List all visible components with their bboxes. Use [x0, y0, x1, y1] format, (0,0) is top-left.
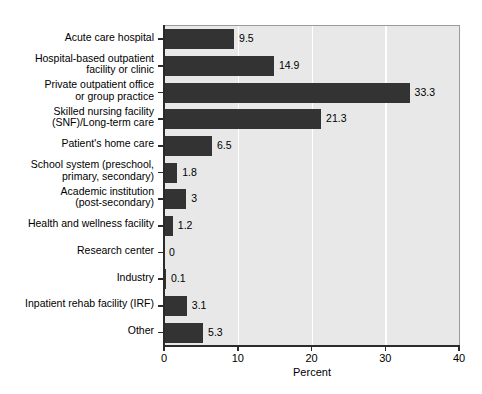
category-label: Hospital-based outpatient facility or cl… [0, 53, 158, 76]
value-label: 3 [191, 193, 197, 204]
y-axis-tick [158, 172, 164, 174]
x-axis-tick [385, 346, 387, 351]
category-label: Skilled nursing facility (SNF)/Long-term… [0, 106, 158, 129]
value-label: 9.5 [239, 33, 254, 44]
y-axis-tick [158, 305, 164, 307]
y-axis-tick [158, 145, 164, 147]
y-axis-tick [158, 92, 164, 94]
x-axis-tick-label: 10 [218, 352, 258, 364]
value-label: 21.3 [326, 113, 346, 124]
category-label: Research center [0, 245, 158, 257]
y-axis-tick [158, 278, 164, 280]
category-label: Inpatient rehab facility (IRF) [0, 298, 158, 310]
y-axis-tick [158, 332, 164, 334]
x-axis-tick-label: 0 [144, 352, 184, 364]
x-axis-tick [163, 346, 165, 351]
x-axis-tick-label: 20 [292, 352, 332, 364]
category-label: Health and wellness facility [0, 218, 158, 230]
value-label: 0.1 [171, 273, 186, 284]
y-axis-tick [158, 38, 164, 40]
y-axis-line [163, 25, 165, 346]
x-axis-title: Percent [164, 366, 460, 378]
value-label: 3.1 [192, 300, 207, 311]
category-label: Private outpatient office or group pract… [0, 79, 158, 102]
value-label: 0 [169, 247, 175, 258]
x-axis-tick [311, 346, 313, 351]
x-axis-tick [237, 346, 239, 351]
bar-chart: Acute care hospitalHospital-based outpat… [0, 0, 482, 394]
category-label: Other [0, 325, 158, 337]
bar-value-labels: 9.514.933.321.36.51.831.200.13.15.3 [164, 25, 482, 345]
y-axis-tick [158, 198, 164, 200]
y-axis-tick [158, 65, 164, 67]
x-axis-tick [458, 346, 460, 351]
value-label: 1.8 [182, 167, 197, 178]
value-label: 6.5 [217, 140, 232, 151]
value-label: 14.9 [279, 60, 299, 71]
y-axis-tick [158, 252, 164, 254]
category-label: School system (preschool, primary, secon… [0, 159, 158, 182]
x-axis-tick-label: 30 [365, 352, 405, 364]
category-label: Acute care hospital [0, 32, 158, 44]
category-label: Patient's home care [0, 138, 158, 150]
y-axis-tick [158, 225, 164, 227]
category-label: Academic institution (post-secondary) [0, 186, 158, 209]
value-label: 33.3 [415, 87, 435, 98]
x-axis-tick-label: 40 [439, 352, 479, 364]
category-axis-labels: Acute care hospitalHospital-based outpat… [0, 25, 158, 345]
y-axis-tick [158, 118, 164, 120]
value-label: 5.3 [208, 327, 223, 338]
category-label: Industry [0, 272, 158, 284]
value-label: 1.2 [178, 220, 193, 231]
